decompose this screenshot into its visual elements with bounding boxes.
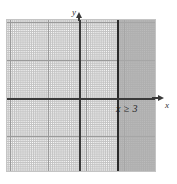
y-axis-label: y	[72, 8, 76, 17]
grid-frame	[6, 19, 156, 172]
coordinate-plane	[6, 19, 156, 172]
x-axis-label: x	[165, 101, 169, 110]
inequality-annotation-label: x ≥ 3	[116, 103, 138, 114]
inequality-graph-figure: y x x ≥ 3	[0, 0, 177, 184]
x-axis-arrow-icon	[158, 95, 164, 101]
y-axis-arrow-icon	[76, 12, 82, 18]
